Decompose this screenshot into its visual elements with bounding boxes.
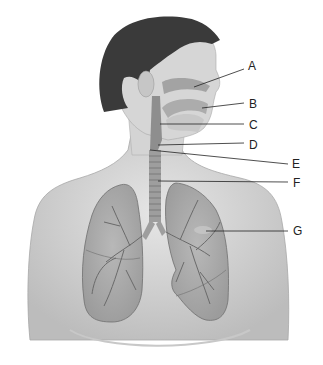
label-c: C: [249, 119, 258, 131]
label-d: D: [249, 139, 258, 151]
label-e: E: [292, 158, 300, 170]
label-f: F: [293, 177, 300, 189]
label-b: B: [249, 98, 257, 110]
respiratory-diagram: [0, 0, 323, 365]
label-a: A: [248, 60, 256, 72]
ear: [138, 71, 154, 97]
pharynx: [150, 96, 162, 150]
label-g: G: [293, 225, 302, 237]
